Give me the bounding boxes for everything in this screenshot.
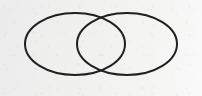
left-ellipse <box>25 13 125 75</box>
right-ellipse <box>77 13 177 75</box>
figure-canvas <box>0 0 202 96</box>
venn-diagram <box>0 0 202 96</box>
